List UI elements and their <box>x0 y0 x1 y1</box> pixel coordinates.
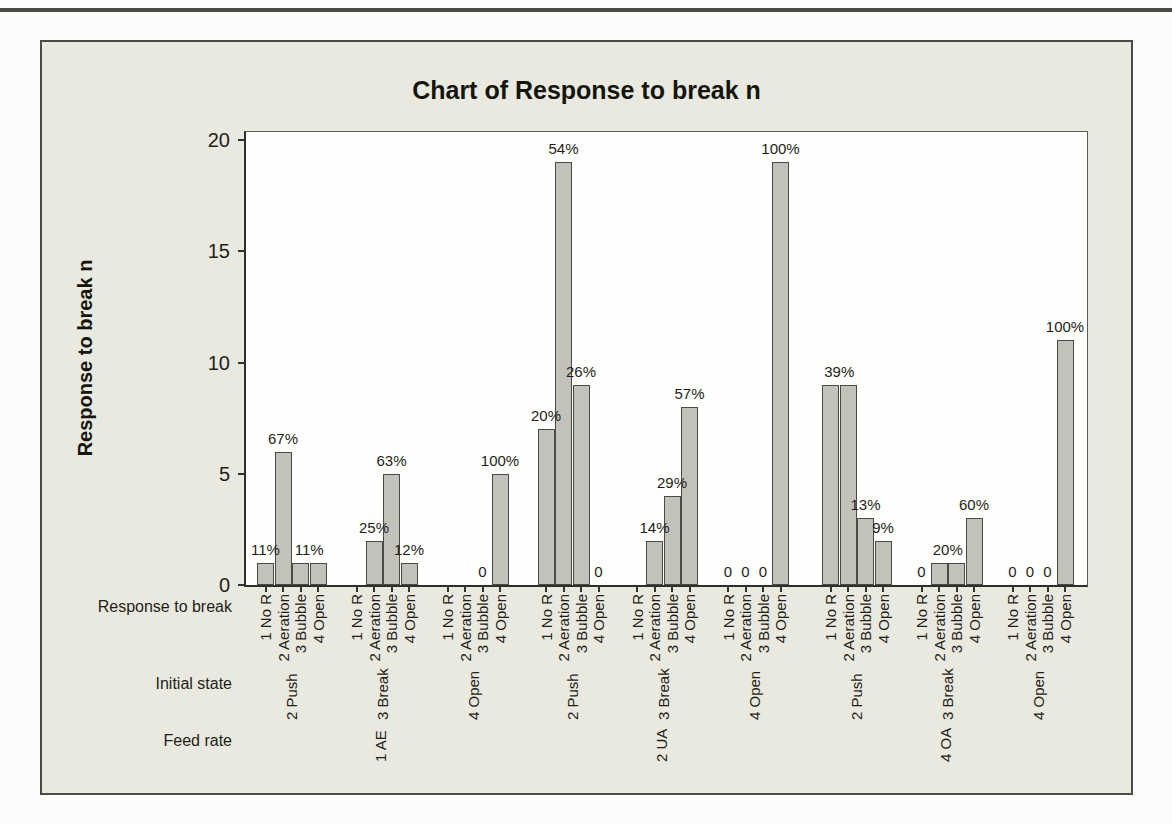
initial-state-label: 2 Push <box>849 673 864 720</box>
x-tick <box>282 585 284 592</box>
bar-label: 0 <box>733 564 793 580</box>
x-tick-label: 4 Open <box>967 594 982 643</box>
bar-label: 60% <box>944 497 1004 513</box>
x-tick <box>882 585 884 592</box>
initial-state-label: 4 Open <box>466 671 481 720</box>
x-tick-label: 4 Open <box>591 594 606 643</box>
bar <box>822 385 839 585</box>
bar-label: 20% <box>918 542 978 558</box>
x-tick <box>847 585 849 592</box>
x-tick <box>938 585 940 592</box>
initial-state-label: 3 Break <box>375 668 390 720</box>
x-tick <box>973 585 975 592</box>
x-tick <box>762 585 764 592</box>
x-tick <box>727 585 729 592</box>
x-axis-row-label-initial-state: Initial state <box>40 674 232 694</box>
x-tick <box>654 585 656 592</box>
y-axis-title: Response to break n <box>74 208 96 508</box>
y-tick-label: 20 <box>178 128 230 152</box>
x-tick-label: 3 Bubble <box>475 594 490 653</box>
bar <box>681 407 698 585</box>
x-tick-label: 3 Bubble <box>665 594 680 653</box>
x-tick-label: 3 Bubble <box>574 594 589 653</box>
y-tick <box>238 139 246 141</box>
y-tick <box>238 473 246 475</box>
x-tick <box>865 585 867 592</box>
x-tick-label: 2 Aeration <box>841 594 856 662</box>
x-tick-label: 1 No R <box>721 594 736 641</box>
x-tick-label: 1 No R <box>258 594 273 641</box>
x-tick <box>580 585 582 592</box>
x-tick <box>563 585 565 592</box>
x-tick-label: 2 Aeration <box>556 594 571 662</box>
x-tick <box>598 585 600 592</box>
y-tick <box>238 362 246 364</box>
x-tick-label: 3 Bubble <box>858 594 873 653</box>
bar-label: 67% <box>253 431 313 447</box>
initial-state-label: 4 Open <box>747 671 762 720</box>
x-tick <box>780 585 782 592</box>
x-tick-label: 4 Open <box>682 594 697 643</box>
x-tick <box>1012 585 1014 592</box>
x-tick-label: 3 Bubble <box>949 594 964 653</box>
x-tick <box>956 585 958 592</box>
x-tick <box>499 585 501 592</box>
x-tick <box>545 585 547 592</box>
x-tick-label: 2 Aeration <box>458 594 473 662</box>
x-tick-label: 4 Open <box>876 594 891 643</box>
x-tick <box>373 585 375 592</box>
x-tick-label: 1 No R <box>349 594 364 641</box>
x-tick-label: 1 No R <box>440 594 455 641</box>
x-tick-label: 3 Bubble <box>1040 594 1055 653</box>
x-tick <box>636 585 638 592</box>
x-tick <box>265 585 267 592</box>
bar <box>646 541 663 586</box>
bar-label: 0 <box>453 564 513 580</box>
bar-label: 0 <box>569 564 629 580</box>
x-tick <box>317 585 319 592</box>
x-tick-label: 4 Open <box>311 594 326 643</box>
x-tick <box>391 585 393 592</box>
bar <box>664 496 681 585</box>
x-tick-label: 1 No R <box>914 594 929 641</box>
x-tick <box>356 585 358 592</box>
x-tick <box>1064 585 1066 592</box>
y-tick-label: 15 <box>178 239 230 263</box>
y-tick-label: 5 <box>178 462 230 486</box>
bar <box>275 452 292 586</box>
initial-state-label: 3 Break <box>940 668 955 720</box>
feed-rate-label: 1 AE <box>373 730 388 762</box>
bar-label: 100% <box>470 453 530 469</box>
bar-label: 0 <box>1018 564 1078 580</box>
bar-label: 20% <box>516 408 576 424</box>
x-tick <box>464 585 466 592</box>
x-tick <box>482 585 484 592</box>
x-tick-label: 4 Open <box>773 594 788 643</box>
x-tick <box>408 585 410 592</box>
x-tick <box>830 585 832 592</box>
bar <box>310 563 327 585</box>
bar <box>875 541 892 586</box>
x-tick <box>300 585 302 592</box>
x-tick-label: 4 Open <box>493 594 508 643</box>
y-tick <box>238 250 246 252</box>
bar-label: 12% <box>379 542 439 558</box>
x-tick-label: 2 Aeration <box>647 594 662 662</box>
x-tick <box>921 585 923 592</box>
bar <box>1057 340 1074 585</box>
initial-state-label: 3 Break <box>656 668 671 720</box>
x-tick <box>671 585 673 592</box>
x-tick <box>1047 585 1049 592</box>
bar <box>840 385 857 585</box>
bar-label: 9% <box>853 520 913 536</box>
bar-label: 57% <box>660 386 720 402</box>
x-tick-label: 3 Bubble <box>293 594 308 653</box>
x-tick-label: 1 No R <box>630 594 645 641</box>
bar <box>772 162 789 585</box>
x-tick-label: 4 Open <box>402 594 417 643</box>
x-tick-label: 1 No R <box>823 594 838 641</box>
y-tick-label: 10 <box>178 351 230 375</box>
x-tick-label: 3 Bubble <box>384 594 399 653</box>
x-tick-label: 2 Aeration <box>367 594 382 662</box>
bar <box>401 563 418 585</box>
